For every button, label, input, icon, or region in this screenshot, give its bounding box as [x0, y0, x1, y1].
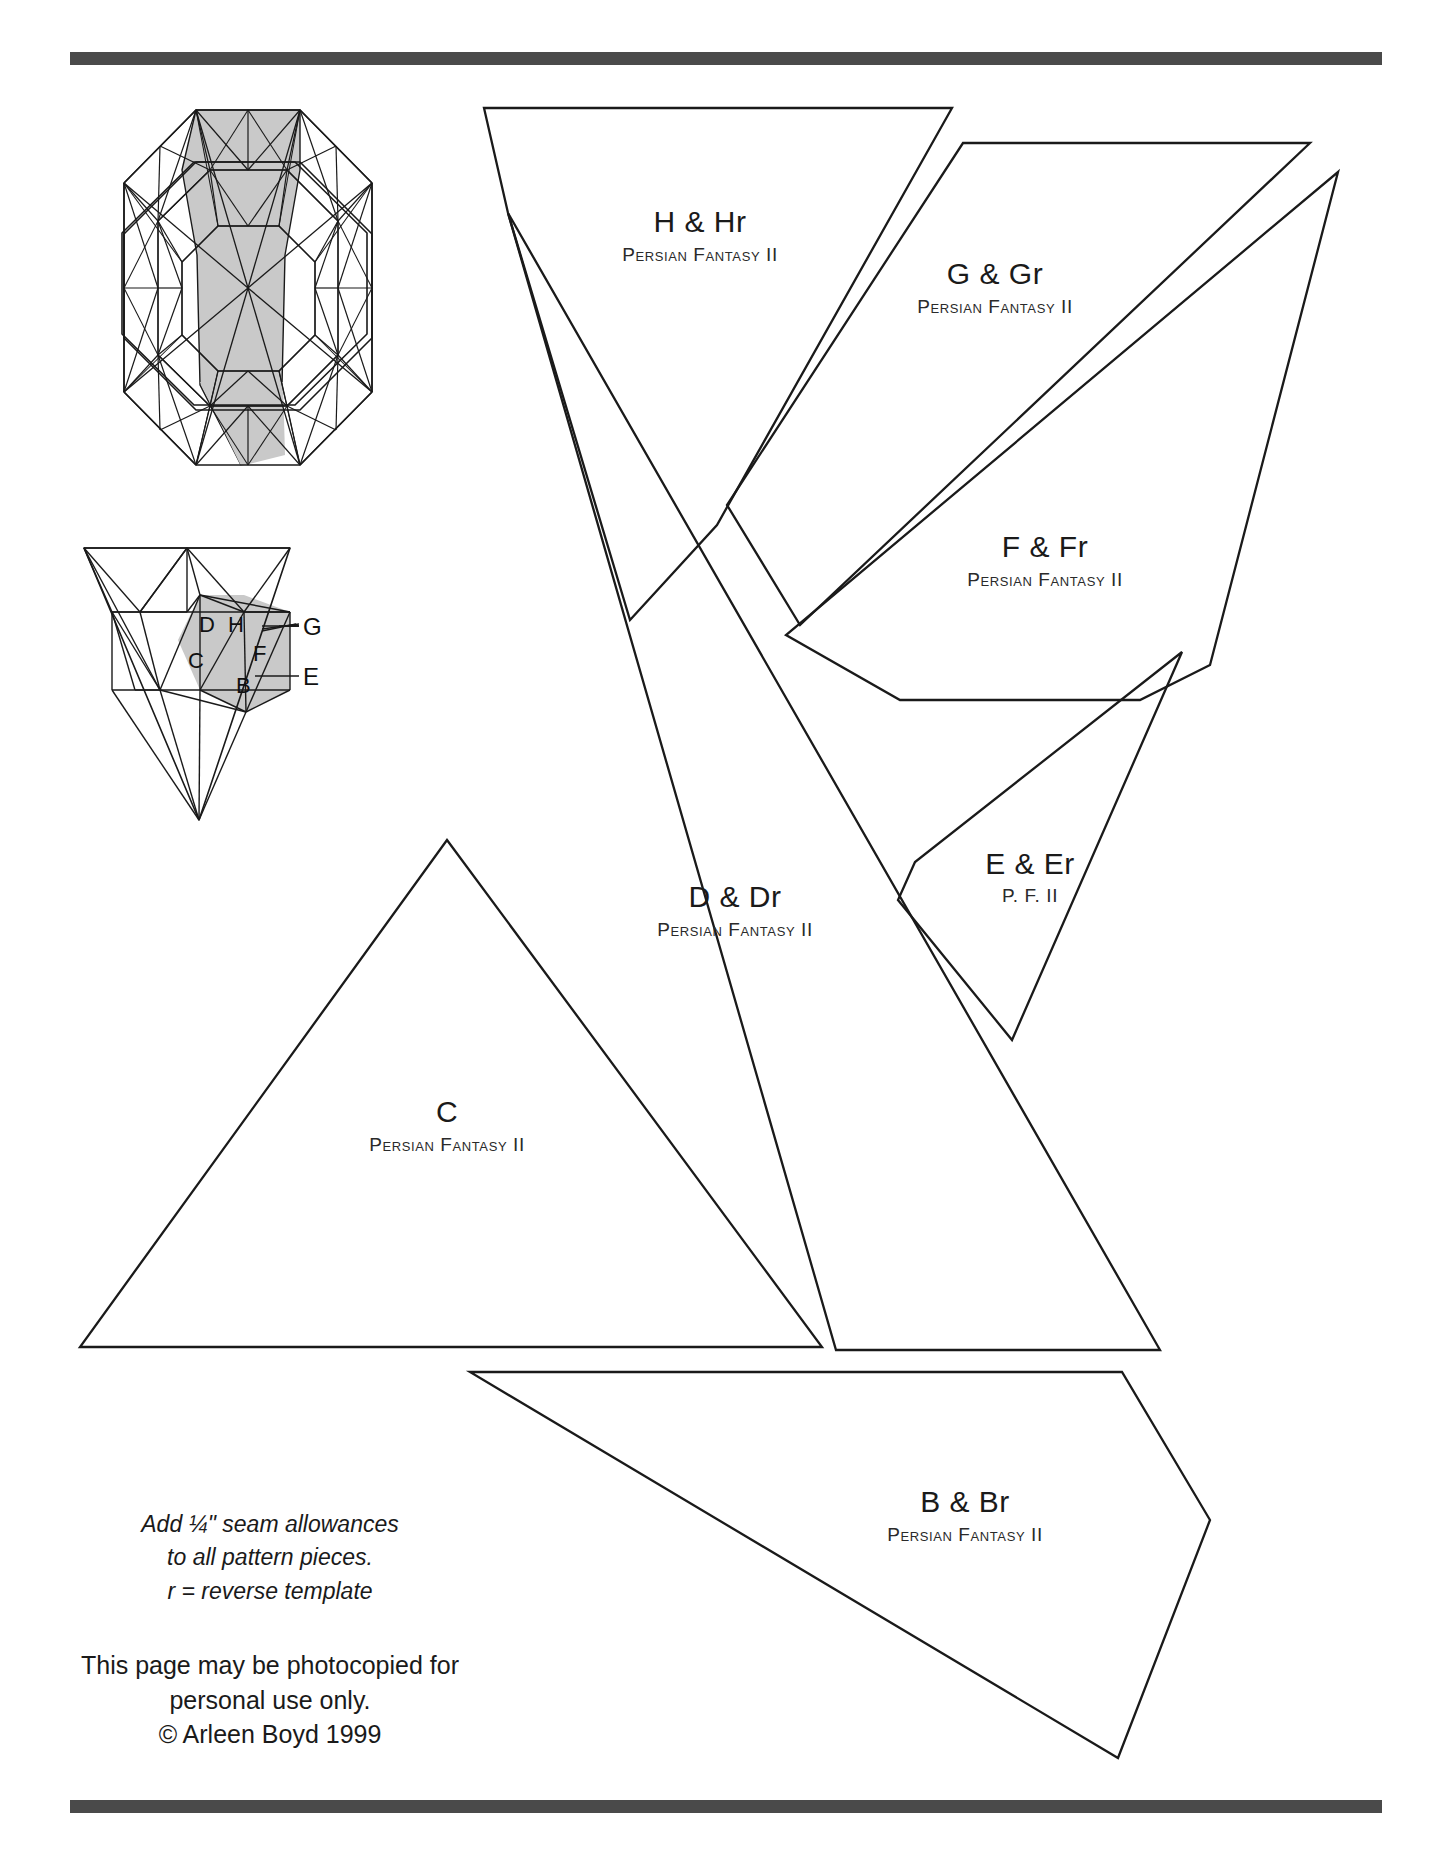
seam-allowance-note: Add ¼" seam allowances to all pattern pi… — [110, 1508, 430, 1608]
piece-title-H: H & Hr — [590, 205, 810, 239]
piece-subtitle-F: Persian Fantasy II — [935, 569, 1155, 590]
seam-note-line-2: to all pattern pieces. — [110, 1541, 430, 1574]
piece-label-G: G & Gr Persian Fantasy II — [885, 257, 1105, 317]
pattern-sheet-page: D H C F B G E H & Hr Persian Fantasy II — [0, 0, 1452, 1871]
piece-outline-E — [898, 652, 1182, 1040]
piece-subtitle-D: Persian Fantasy II — [625, 919, 845, 940]
piece-label-B: B & Br Persian Fantasy II — [855, 1485, 1075, 1545]
piece-title-E: E & Er — [940, 847, 1120, 881]
piece-label-F: F & Fr Persian Fantasy II — [935, 530, 1155, 590]
piece-outline-H — [484, 108, 952, 620]
piece-outline-B — [470, 1372, 1210, 1758]
piece-title-B: B & Br — [855, 1485, 1075, 1519]
piece-label-C: C Persian Fantasy II — [337, 1095, 557, 1155]
piece-outline-D — [508, 213, 1160, 1350]
piece-subtitle-E: P. F. II — [940, 885, 1120, 906]
piece-subtitle-C: Persian Fantasy II — [337, 1134, 557, 1155]
piece-title-G: G & Gr — [885, 257, 1105, 291]
piece-label-E: E & Er P. F. II — [940, 847, 1120, 906]
piece-subtitle-B: Persian Fantasy II — [855, 1524, 1075, 1545]
seam-note-line-1: Add ¼" seam allowances — [110, 1508, 430, 1541]
seam-note-line-3: r = reverse template — [110, 1575, 430, 1608]
piece-outline-F — [786, 172, 1338, 700]
piece-subtitle-H: Persian Fantasy II — [590, 244, 810, 265]
copyright-note: This page may be photocopied for persona… — [80, 1648, 460, 1752]
copyright-line-1: This page may be photocopied for — [80, 1648, 460, 1683]
piece-label-D: D & Dr Persian Fantasy II — [625, 880, 845, 940]
copyright-line-3: © Arleen Boyd 1999 — [80, 1717, 460, 1752]
copyright-line-2: personal use only. — [80, 1683, 460, 1718]
piece-title-D: D & Dr — [625, 880, 845, 914]
piece-title-C: C — [337, 1095, 557, 1129]
piece-label-H: H & Hr Persian Fantasy II — [590, 205, 810, 265]
piece-title-F: F & Fr — [935, 530, 1155, 564]
piece-subtitle-G: Persian Fantasy II — [885, 296, 1105, 317]
